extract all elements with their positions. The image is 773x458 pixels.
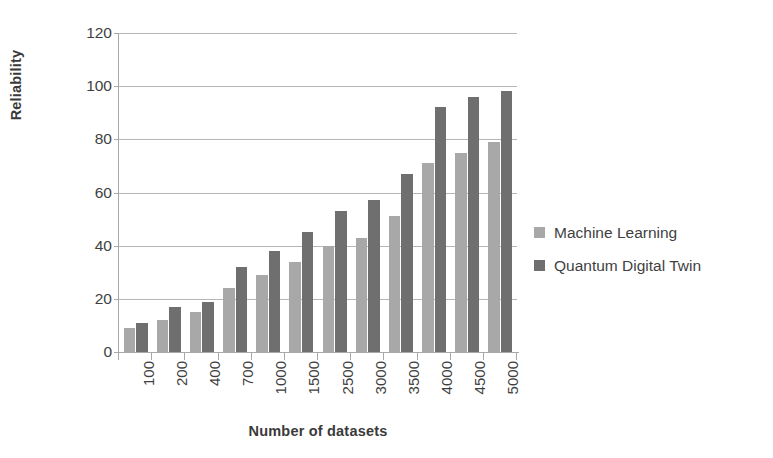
- x-category-label: 5000: [505, 361, 520, 419]
- y-tick-label: 120: [68, 25, 112, 41]
- x-category-label: 400: [207, 361, 222, 419]
- x-axis-tick-mark: [383, 353, 384, 360]
- bar-chart: Reliability 020406080100120 100200400700…: [0, 0, 773, 458]
- x-axis-tick-mark: [417, 353, 418, 360]
- x-category-label: 2500: [340, 361, 355, 419]
- x-axis-tick-mark: [516, 353, 517, 360]
- legend-item[interactable]: Quantum Digital Twin: [534, 249, 764, 282]
- bar-group: [152, 33, 185, 352]
- x-category-label: 1000: [273, 361, 288, 419]
- x-category-label: 1500: [306, 361, 321, 419]
- bar-group: [484, 33, 517, 352]
- legend-label: Machine Learning: [554, 224, 677, 242]
- bar: [169, 307, 181, 352]
- bar-group: [384, 33, 417, 352]
- y-axis-tick-labels: 020406080100120: [62, 0, 112, 458]
- bar: [335, 211, 347, 352]
- legend-item[interactable]: Machine Learning: [534, 216, 764, 249]
- y-tick-label: 40: [68, 238, 112, 254]
- bar: [302, 232, 314, 352]
- x-category-label: 700: [240, 361, 255, 419]
- x-category-label: 4000: [439, 361, 454, 419]
- x-category-label: 3000: [373, 361, 388, 419]
- bar: [223, 288, 235, 352]
- bar-group: [418, 33, 451, 352]
- bar: [468, 97, 480, 352]
- legend-label: Quantum Digital Twin: [554, 257, 701, 275]
- x-axis-tick-mark: [184, 353, 185, 360]
- bar: [157, 320, 169, 352]
- x-axis-tick-mark: [483, 353, 484, 360]
- x-axis-tick-mark: [218, 353, 219, 360]
- x-category-label: 100: [141, 361, 156, 419]
- x-axis-title: Number of datasets: [118, 423, 518, 439]
- x-axis-tick-mark: [450, 353, 451, 360]
- bar: [136, 323, 148, 352]
- x-axis-tick-mark: [350, 353, 351, 360]
- plot-area: [118, 33, 517, 352]
- bar-group: [285, 33, 318, 352]
- x-category-label: 4500: [472, 361, 487, 419]
- legend: Machine LearningQuantum Digital Twin: [534, 216, 764, 282]
- bar-group: [252, 33, 285, 352]
- bar-group: [219, 33, 252, 352]
- bar: [401, 174, 413, 352]
- y-tick-label: 60: [68, 185, 112, 201]
- bar: [236, 267, 248, 352]
- x-axis-category-labels: 1002004007001000150025003000350040004500…: [118, 361, 518, 419]
- legend-swatch-icon: [534, 260, 545, 271]
- bar: [435, 107, 447, 352]
- bar: [356, 238, 368, 352]
- bar-group: [351, 33, 384, 352]
- y-axis-title: Reliability: [8, 10, 28, 160]
- bar: [389, 216, 401, 352]
- x-category-label: 200: [174, 361, 189, 419]
- bar-group: [119, 33, 152, 352]
- x-axis-tick-mark: [118, 353, 119, 360]
- bar: [455, 153, 467, 352]
- bar: [190, 312, 202, 352]
- bar: [202, 302, 214, 353]
- y-tick-label: 0: [68, 344, 112, 360]
- bar: [422, 163, 434, 352]
- bar: [124, 328, 136, 352]
- x-axis-tick-mark: [251, 353, 252, 360]
- x-axis-tick-mark: [151, 353, 152, 360]
- y-tick-label: 80: [68, 131, 112, 147]
- x-axis-tick-mark: [317, 353, 318, 360]
- bar: [256, 275, 268, 352]
- bar-group: [185, 33, 218, 352]
- bar-group: [451, 33, 484, 352]
- y-tick-label: 20: [68, 291, 112, 307]
- legend-swatch-icon: [534, 227, 545, 238]
- bar: [368, 200, 380, 352]
- bar-group: [318, 33, 351, 352]
- x-axis-tick-marks: [118, 353, 518, 361]
- bar-series-container: [119, 33, 517, 352]
- bar: [501, 91, 513, 352]
- x-axis-tick-mark: [284, 353, 285, 360]
- bar: [289, 262, 301, 352]
- y-tick-label: 100: [68, 78, 112, 94]
- x-category-label: 3500: [406, 361, 421, 419]
- bar: [323, 246, 335, 352]
- bar: [488, 142, 500, 352]
- bar: [269, 251, 281, 352]
